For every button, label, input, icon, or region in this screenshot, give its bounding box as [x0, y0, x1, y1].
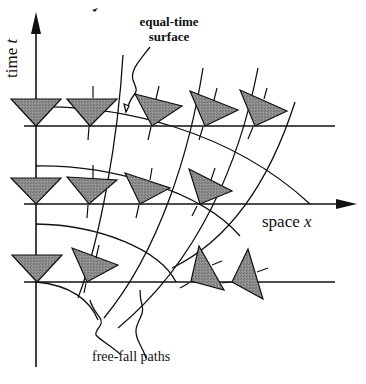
free-fall-pointer-2	[136, 290, 146, 358]
space-axis-label: space x	[262, 212, 312, 232]
spacetime-diagram	[0, 0, 366, 384]
equal-time-arc-bottom	[36, 282, 98, 320]
observer-triangle	[11, 99, 61, 126]
free-fall-pointer-1	[90, 300, 120, 354]
observer-triangle	[12, 255, 62, 282]
observer-triangle	[67, 86, 117, 140]
equal-time-surface-label: equal-time surface	[124, 14, 214, 44]
speck	[92, 8, 98, 12]
observer-triangle	[125, 168, 170, 218]
observer-triangle	[222, 249, 268, 299]
time-axis-label: time t	[2, 39, 22, 78]
time-axis-arrowhead	[31, 12, 41, 34]
free-fall-path-4	[172, 102, 295, 268]
observer-triangle	[135, 86, 182, 140]
observer-triangle	[11, 178, 61, 204]
space-axis-arrowhead	[336, 199, 357, 209]
observer-triangle	[72, 245, 118, 293]
free-fall-paths-label: free-fall paths	[92, 349, 170, 365]
observer-triangle	[180, 246, 224, 290]
observer-triangle	[190, 88, 238, 140]
